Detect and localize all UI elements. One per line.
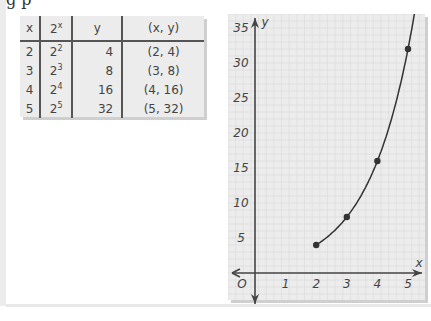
graph-shadow-right [425,17,428,303]
table-row: 42416(4, 16) [20,80,204,99]
cell-y: 32 [72,99,122,118]
origin-label: O [237,277,246,291]
cell-x: 5 [20,99,40,118]
y-axis-label: y [260,15,269,29]
data-point [344,214,350,220]
data-point [405,46,411,52]
cell-power: 25 [40,99,72,118]
x-tick-label: 2 [312,277,320,291]
x-tick-label: 1 [282,277,290,291]
cell-pair: (3, 8) [122,61,204,80]
x-tick-label: 4 [374,277,382,291]
y-tick-label: 25 [233,91,248,105]
cell-pair: (2, 4) [122,41,204,61]
cell-power: 23 [40,61,72,80]
y-tick-label: 30 [233,56,249,70]
y-tick-label: 10 [233,196,249,210]
x-axis-label: x [414,256,423,270]
data-point [374,158,380,164]
cell-pair: (5, 32) [122,99,204,118]
cell-power: 22 [40,41,72,61]
y-tick-label: 5 [237,231,245,245]
header-x: x [20,16,40,41]
cell-x: 2 [20,41,40,61]
graph-shadow-bottom [231,300,428,303]
table-row: 3238(3, 8) [20,61,204,80]
table-row: 52532(5, 32) [20,99,204,118]
header-power: 2x [40,16,72,41]
values-table: x 2x y (x, y) 2224(2, 4)3238(3, 8)42416(… [20,16,204,117]
cell-y: 4 [72,41,122,61]
page-left-border [0,0,6,306]
y-tick-label: 15 [233,161,248,175]
cell-x: 3 [20,61,40,80]
data-point [313,242,319,248]
cut-off-heading: g p [6,0,32,9]
x-tick-label: 5 [404,277,412,291]
table-row: 2224(2, 4) [20,41,204,61]
cell-x: 4 [20,80,40,99]
cell-y: 8 [72,61,122,80]
cell-power: 24 [40,80,72,99]
y-tick-label: 35 [233,21,248,35]
graph-background [228,14,425,300]
y-tick-label: 20 [233,126,249,140]
chart-canvas: yxO123455101520253035 [228,14,428,306]
cell-y: 16 [72,80,122,99]
cell-pair: (4, 16) [122,80,204,99]
header-y: y [72,16,122,41]
header-pair: (x, y) [122,16,204,41]
table-header-row: x 2x y (x, y) [20,16,204,41]
x-tick-label: 3 [343,277,351,291]
